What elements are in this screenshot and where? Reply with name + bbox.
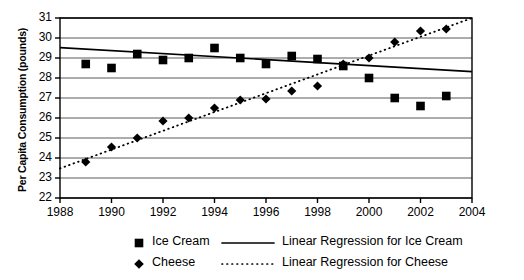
legend-item-label: Cheese bbox=[152, 255, 195, 269]
legend-item-label: Ice Cream bbox=[152, 234, 210, 248]
chart-legend: Ice CreamCheeseLinear Regression for Ice… bbox=[0, 0, 524, 280]
legend-item-label: Linear Regression for Cheese bbox=[282, 255, 448, 269]
chart-figure: Per Capita Consumption (pounds) 22232425… bbox=[0, 0, 524, 280]
legend-item-label: Linear Regression for Ice Cream bbox=[282, 234, 463, 248]
